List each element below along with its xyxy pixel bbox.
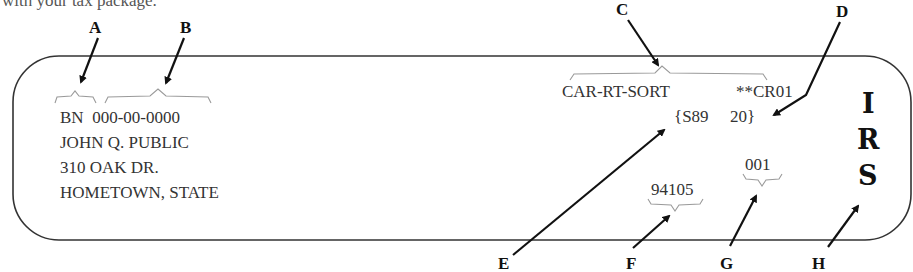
- code-right: 20}: [730, 107, 755, 127]
- brace-b: [105, 89, 211, 103]
- presort-code: CAR-RT-SORT: [562, 82, 670, 102]
- name-ssn-line: BN 000-00-0000: [60, 105, 180, 130]
- callout-c: C: [616, 0, 628, 20]
- callout-f: F: [626, 254, 636, 272]
- arrow-a: [81, 38, 98, 82]
- arrow-b: [166, 38, 184, 83]
- code-left: {S89: [674, 107, 709, 127]
- brace-f: [648, 199, 703, 211]
- street-address: 310 OAK DR.: [60, 155, 159, 180]
- arrow-g: [730, 196, 756, 246]
- arrow-f: [633, 216, 669, 248]
- brace-c: [570, 66, 767, 80]
- callout-h: H: [812, 254, 825, 272]
- ssn: 000-00-0000: [92, 108, 180, 127]
- callout-e: E: [498, 254, 509, 272]
- arrow-h: [828, 206, 858, 247]
- carrier-route: **CR01: [736, 82, 793, 102]
- callout-b: B: [180, 18, 191, 38]
- brace-g: [743, 174, 782, 186]
- arrow-e: [513, 130, 664, 255]
- city-state: HOMETOWN, STATE: [60, 180, 219, 205]
- callout-d: D: [836, 2, 848, 22]
- zip-code: 94105: [651, 180, 694, 200]
- arrow-c: [628, 20, 658, 65]
- brace-a: [55, 91, 96, 103]
- sequence-number: 001: [745, 155, 771, 175]
- irs-letter-r: R: [857, 124, 879, 155]
- name-control: BN: [60, 108, 84, 127]
- callout-g: G: [720, 254, 733, 272]
- irs-letter-s: S: [858, 160, 878, 191]
- callout-a: A: [89, 18, 101, 38]
- taxpayer-name: JOHN Q. PUBLIC: [60, 130, 189, 155]
- irs-letter-i: I: [862, 88, 875, 119]
